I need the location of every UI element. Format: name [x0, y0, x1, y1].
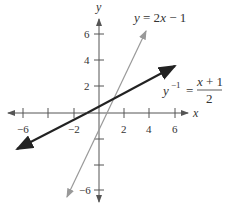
y-axis-label: y [95, 0, 102, 14]
svg-text:y: y [161, 83, 169, 98]
x-tick-label: 2 [121, 123, 127, 135]
x-tick-label: −2 [68, 123, 80, 135]
y-tick-label: 6 [84, 28, 90, 40]
inverse-function-graph: −6 −2 2 4 6 x 6 4 2 −6 y [0, 0, 226, 210]
equation-label-line1: y = 2x − 1 [132, 10, 186, 25]
equation-label-inverse: y −1 = x + 1 2 [161, 74, 223, 106]
y-axis: 6 4 2 −6 y [79, 0, 104, 202]
x-tick-label: 4 [146, 123, 152, 135]
fraction-numerator: x + 1 [196, 74, 223, 89]
chart-svg: −6 −2 2 4 6 x 6 4 2 −6 y [0, 0, 226, 210]
svg-text:=: = [186, 83, 193, 98]
y-tick-label: −6 [79, 184, 91, 196]
x-tick-label: 6 [172, 123, 178, 135]
line-y-equals-2x-minus-1 [67, 31, 146, 197]
y-tick-label: 2 [84, 80, 90, 92]
y-tick-label: 4 [84, 54, 90, 66]
x-tick-label: −6 [17, 123, 29, 135]
x-axis-label: x [192, 106, 199, 120]
fraction-denominator: 2 [206, 91, 213, 106]
svg-text:−1: −1 [171, 80, 181, 90]
